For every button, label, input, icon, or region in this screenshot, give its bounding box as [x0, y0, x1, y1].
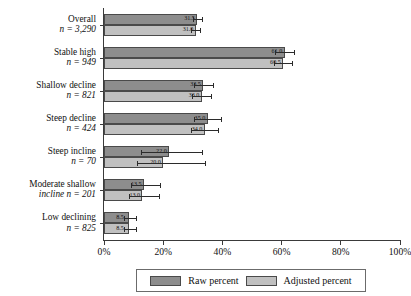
- error-bar-cap: [192, 94, 193, 99]
- error-bar-cap: [275, 50, 276, 55]
- bar-raw: [104, 113, 208, 124]
- error-bar: [193, 19, 202, 20]
- error-bar: [141, 152, 202, 153]
- bar-raw: [104, 80, 203, 91]
- error-bar: [274, 63, 292, 64]
- error-bar-cap: [294, 50, 295, 55]
- x-axis-tick: [281, 241, 282, 245]
- bar-adjusted: [104, 58, 283, 69]
- bar-group: 8.58.5: [104, 212, 400, 234]
- bar-chart: Overalln = 3,290Stable highn = 949Shallo…: [0, 0, 411, 296]
- legend-label-raw: Raw percent: [188, 275, 238, 286]
- y-axis-tick: [100, 223, 104, 224]
- plot-area: 31.531.061.060.533.533.035.034.022.020.0…: [104, 8, 400, 240]
- category-count: n = 3,290: [0, 24, 96, 34]
- x-axis-tick: [104, 241, 105, 245]
- category-label: Steep declinen = 424: [0, 113, 96, 133]
- error-bar: [275, 52, 293, 53]
- error-bar-cap: [131, 183, 132, 188]
- x-axis-tick-label: 40%: [214, 246, 232, 257]
- error-bar-cap: [200, 28, 201, 33]
- category-count: n = 949: [0, 57, 96, 67]
- error-bar-cap: [211, 94, 212, 99]
- category-count: n = 424: [0, 123, 96, 133]
- error-bar: [191, 130, 218, 131]
- bar-group: 61.060.5: [104, 47, 400, 69]
- error-bar-cap: [129, 194, 130, 199]
- x-axis-tick-label: 20%: [154, 246, 172, 257]
- category-name: Shallow decline: [0, 80, 96, 90]
- category-label: Shallow declinen = 821: [0, 80, 96, 100]
- chart-legend: Raw percent Adjusted percent: [136, 269, 366, 292]
- category-axis: Overalln = 3,290Stable highn = 949Shallo…: [0, 8, 100, 240]
- category-name: Overall: [0, 14, 96, 24]
- x-axis-tick: [222, 241, 223, 245]
- y-axis-tick: [100, 124, 104, 125]
- legend-label-adjusted: Adjusted percent: [284, 275, 352, 286]
- bar-adjusted: [104, 124, 205, 135]
- category-label: Steep inclinen = 70: [0, 146, 96, 166]
- error-bar: [131, 185, 161, 186]
- y-axis-tick: [100, 58, 104, 59]
- error-bar-cap: [137, 161, 138, 166]
- error-bar: [129, 196, 159, 197]
- bar-group: 13.513.0: [104, 179, 400, 201]
- error-bar-cap: [202, 17, 203, 22]
- x-axis-tick: [340, 241, 341, 245]
- error-bar-cap: [213, 83, 214, 88]
- error-bar: [191, 30, 200, 31]
- bar-group: 33.533.0: [104, 80, 400, 102]
- x-axis-line: [103, 240, 401, 241]
- error-bar-cap: [124, 227, 125, 232]
- category-name: Steep incline: [0, 146, 96, 156]
- category-count: n = 825: [0, 223, 96, 233]
- error-bar-cap: [205, 161, 206, 166]
- bar-group: 22.020.0: [104, 146, 400, 168]
- category-name: Steep decline: [0, 113, 96, 123]
- x-axis-tick: [400, 241, 401, 245]
- y-axis-tick: [100, 190, 104, 191]
- error-bar-cap: [194, 83, 195, 88]
- error-bar-cap: [218, 128, 219, 133]
- error-bar: [194, 85, 213, 86]
- bar-raw: [104, 14, 197, 25]
- error-bar-cap: [136, 216, 137, 221]
- error-bar: [124, 218, 136, 219]
- category-name: Stable high: [0, 47, 96, 57]
- category-name: Moderate shallow: [0, 179, 96, 189]
- error-bar-cap: [136, 227, 137, 232]
- x-axis-tick-label: 80%: [332, 246, 350, 257]
- category-label: Overalln = 3,290: [0, 14, 96, 34]
- x-axis-tick-label: 0%: [98, 246, 111, 257]
- error-bar-cap: [141, 150, 142, 155]
- x-axis-tick: [163, 241, 164, 245]
- legend-swatch-raw: [150, 276, 181, 286]
- y-axis-tick: [100, 91, 104, 92]
- category-count: n = 821: [0, 90, 96, 100]
- category-label: Low decliningn = 825: [0, 212, 96, 232]
- error-bar-cap: [193, 17, 194, 22]
- error-bar: [192, 96, 211, 97]
- error-bar-cap: [292, 61, 293, 66]
- x-axis-tick-label: 100%: [389, 246, 411, 257]
- category-count: n = 70: [0, 156, 96, 166]
- error-bar-cap: [160, 183, 161, 188]
- category-name: Low declining: [0, 212, 96, 222]
- error-bar-cap: [159, 194, 160, 199]
- error-bar-cap: [191, 128, 192, 133]
- error-bar-cap: [191, 28, 192, 33]
- legend-swatch-adjusted: [246, 276, 277, 286]
- y-axis-tick: [100, 157, 104, 158]
- category-label: Moderate shallowincline n = 201: [0, 179, 96, 199]
- category-count: incline n = 201: [0, 189, 96, 199]
- error-bar-cap: [221, 117, 222, 122]
- error-bar: [194, 119, 221, 120]
- error-bar-cap: [274, 61, 275, 66]
- bar-group: 31.531.0: [104, 14, 400, 36]
- bar-group: 35.034.0: [104, 113, 400, 135]
- error-bar: [137, 163, 205, 164]
- bar-raw: [104, 47, 285, 58]
- bar-adjusted: [104, 91, 202, 102]
- error-bar-cap: [194, 117, 195, 122]
- x-axis-tick-label: 60%: [273, 246, 291, 257]
